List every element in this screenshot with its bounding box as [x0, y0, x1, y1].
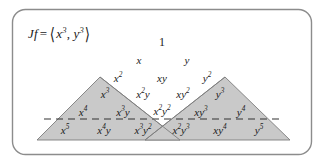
formula-operator: =	[38, 26, 50, 41]
monomial-degree-1-term-0: x	[137, 55, 142, 66]
jacobian-formula: Jf=⟨x3, y3⟩	[28, 26, 91, 43]
monomial-exponent: 2	[186, 87, 190, 95]
monomial-degree-4-term-1: x3y	[116, 107, 129, 118]
pascal-triangle-figure: Jf=⟨x3, y3⟩ 1xyx2xyy2x3x2yxy2y3x4x3yx2y2…	[0, 0, 324, 163]
monomial-base: 1	[159, 35, 165, 49]
monomial-tail-exponent: 2	[148, 123, 152, 131]
monomial-degree-4-term-2: x2y2	[153, 106, 170, 117]
monomial-degree-3-term-2: xy2	[176, 89, 189, 100]
monomial-degree-0-term-0: 1	[159, 36, 165, 48]
monomial-tail-exponent: 2	[167, 104, 171, 112]
monomial-degree-5-term-1: x4y	[97, 125, 110, 136]
monomial-exponent: 4	[84, 105, 88, 113]
monomial-exponent: 5	[66, 123, 70, 131]
monomial-base: y	[185, 54, 190, 66]
monomial-degree-5-term-5: y5	[255, 125, 264, 136]
monomial-degree-3-term-3: y3	[216, 89, 225, 100]
monomial-base: xy	[213, 124, 223, 136]
monomial-exponent: 2	[208, 71, 212, 79]
monomial-base: x	[137, 54, 142, 66]
monomial-degree-5-term-4: xy4	[213, 125, 226, 136]
monomial-degree-2-term-1: xy	[157, 73, 167, 84]
monomial-exponent: 3	[221, 87, 225, 95]
monomial-base: xy	[194, 106, 204, 118]
formula-component-y-exponent: 3	[80, 25, 85, 35]
monomial-exponent: 5	[260, 123, 264, 131]
monomial-degree-5-term-3: x2y3	[172, 125, 189, 136]
monomial-exponent: 3	[106, 87, 110, 95]
monomial-degree-4-term-3: xy3	[194, 107, 207, 118]
monomial-degree-5-term-0: x5	[61, 125, 70, 136]
angle-bracket-open-icon: ⟨	[50, 26, 55, 43]
monomial-degree-4-term-4: y4	[237, 107, 246, 118]
monomial-base: xy	[176, 88, 186, 100]
monomial-base: xy	[157, 72, 167, 84]
monomial-exponent: 2	[119, 71, 123, 79]
monomial-exponent: 4	[242, 105, 246, 113]
monomial-degree-4-term-0: x4	[79, 107, 88, 118]
monomial-degree-3-term-1: x2y	[136, 89, 149, 100]
monomial-degree-2-term-2: y2	[203, 73, 212, 84]
monomial-degree-5-term-2: x3y2	[134, 125, 151, 136]
monomial-tail-base: y	[125, 106, 130, 118]
formula-lhs: Jf	[28, 26, 38, 41]
formula-separator: ,	[67, 26, 70, 41]
angle-bracket-close-icon: ⟩	[85, 26, 90, 43]
monomial-tail-base: y	[145, 88, 150, 100]
monomial-tail-base: y	[106, 124, 111, 136]
monomial-exponent: 4	[223, 123, 227, 131]
monomial-tail-exponent: 3	[186, 123, 190, 131]
monomial-exponent: 3	[204, 105, 208, 113]
monomial-degree-1-term-1: y	[185, 55, 190, 66]
monomial-degree-3-term-0: x3	[101, 89, 110, 100]
monomial-degree-2-term-0: x2	[114, 73, 123, 84]
